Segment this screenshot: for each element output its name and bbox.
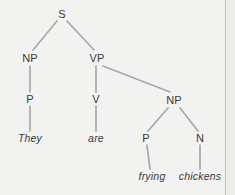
right-margin-area	[226, 0, 235, 195]
tree-edges-layer	[0, 0, 235, 195]
leaf-are: are	[88, 133, 104, 144]
node-p-subject: P	[26, 94, 34, 105]
right-border-line	[225, 0, 226, 195]
leaf-frying: frying	[139, 171, 166, 182]
syntax-tree-figure: S NP VP P V NP P N They are frying chick…	[0, 0, 235, 195]
edge-vp-np	[103, 66, 170, 92]
edge-p2-frying	[147, 145, 150, 169]
edge-np-p2	[148, 108, 168, 131]
node-p-object: P	[142, 133, 150, 144]
node-s: S	[58, 9, 66, 20]
node-n-object: N	[196, 133, 204, 144]
edge-s-np	[33, 21, 57, 50]
leaf-they: They	[18, 133, 42, 144]
node-np-object: NP	[166, 95, 182, 106]
edge-np-n	[180, 108, 198, 131]
edge-s-vp	[67, 21, 94, 50]
node-v: V	[92, 94, 100, 105]
node-np-subject: NP	[22, 53, 38, 64]
leaf-chickens: chickens	[179, 171, 221, 182]
node-vp: VP	[89, 53, 104, 64]
